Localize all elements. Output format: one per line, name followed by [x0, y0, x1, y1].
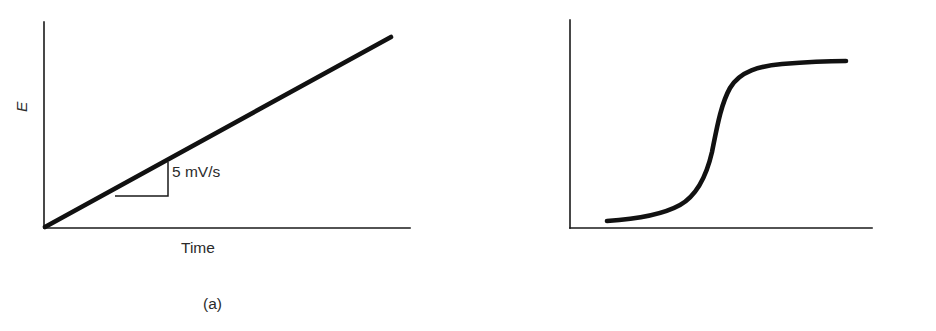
panel-b-plot — [468, 0, 936, 290]
panel-b: (+) I (−) (+) E → (−) (b) — [468, 0, 936, 331]
panel-a-slope-annotation: 5 mV/s — [172, 164, 220, 180]
panel-a-y-axis-label: E — [14, 102, 30, 112]
panel-a-x-axis-label: Time — [181, 240, 215, 256]
panel-a-ramp-line — [45, 37, 391, 227]
figure-container: E 5 mV/s Time (a) (+) I (−) (+) E → (−) … — [0, 0, 936, 331]
panel-a: E 5 mV/s Time (a) — [0, 0, 468, 331]
panel-a-slope-triangle — [115, 162, 168, 196]
panel-a-plot — [0, 0, 468, 290]
panel-a-caption: (a) — [203, 296, 222, 312]
panel-b-wave-curve — [607, 61, 846, 221]
